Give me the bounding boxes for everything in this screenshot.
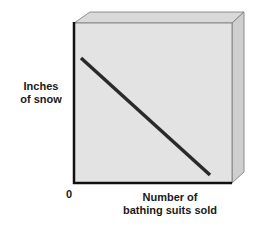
origin-label: 0 — [66, 188, 76, 201]
box-top-face — [74, 12, 244, 23]
box-side-face — [232, 12, 244, 183]
x-axis-label-line2: bathing suits sold — [120, 204, 220, 217]
plot-area — [74, 23, 232, 183]
y-axis-label: Inches of snow — [8, 80, 74, 106]
y-axis-label-line2: of snow — [8, 93, 74, 106]
x-axis-label-line1: Number of — [120, 191, 220, 204]
y-axis-label-line1: Inches — [8, 80, 74, 93]
x-axis-label: Number of bathing suits sold — [120, 191, 220, 217]
